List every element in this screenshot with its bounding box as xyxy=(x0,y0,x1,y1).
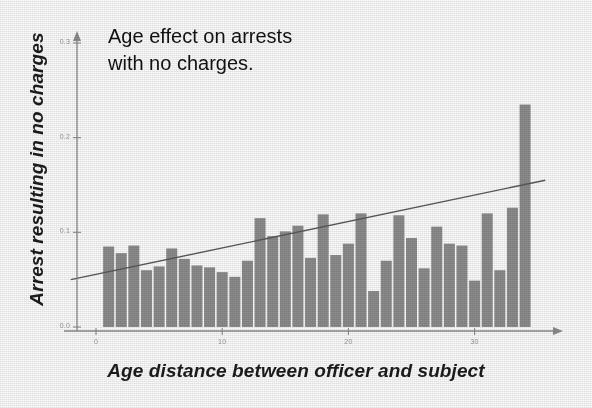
bar xyxy=(229,277,240,327)
plot-area: 0.00.10.20.30102030 xyxy=(0,0,592,408)
bar xyxy=(368,291,379,327)
bar xyxy=(103,247,114,327)
bar xyxy=(116,253,127,327)
bar xyxy=(280,231,291,327)
x-tick-label: 30 xyxy=(463,338,487,345)
y-tick-label: 0.2 xyxy=(44,133,70,140)
bar xyxy=(305,258,316,327)
x-tick-label: 10 xyxy=(210,338,234,345)
bar xyxy=(406,238,417,327)
bar xyxy=(191,265,202,327)
chart-figure: Age effect on arrests with no charges. A… xyxy=(0,0,592,408)
bar xyxy=(482,213,493,327)
bar xyxy=(318,214,329,327)
x-axis-arrow xyxy=(553,327,563,335)
bar xyxy=(166,248,177,327)
bar xyxy=(267,236,278,327)
bar xyxy=(292,226,303,327)
bar xyxy=(154,266,165,327)
bar xyxy=(431,227,442,327)
bar xyxy=(393,215,404,327)
bar xyxy=(469,281,480,327)
y-tick-label: 0.0 xyxy=(44,322,70,329)
bar xyxy=(343,244,354,327)
bar xyxy=(179,259,190,327)
chart-svg xyxy=(0,0,592,408)
bar xyxy=(381,261,392,327)
bar xyxy=(507,208,518,327)
bar-series xyxy=(103,105,530,327)
x-tick-label: 20 xyxy=(336,338,360,345)
bar xyxy=(494,270,505,327)
bar xyxy=(520,105,531,327)
y-tick-label: 0.1 xyxy=(44,227,70,234)
bar xyxy=(141,270,152,327)
bar xyxy=(204,267,215,327)
bar xyxy=(356,213,367,327)
bar xyxy=(128,246,139,327)
bar xyxy=(444,244,455,327)
y-axis-arrow xyxy=(73,31,81,41)
bar xyxy=(330,255,341,327)
bar xyxy=(217,272,228,327)
bar xyxy=(255,218,266,327)
bar xyxy=(242,261,253,327)
bar xyxy=(456,246,467,327)
x-tick-label: 0 xyxy=(84,338,108,345)
y-tick-label: 0.3 xyxy=(44,38,70,45)
bar xyxy=(419,268,430,327)
